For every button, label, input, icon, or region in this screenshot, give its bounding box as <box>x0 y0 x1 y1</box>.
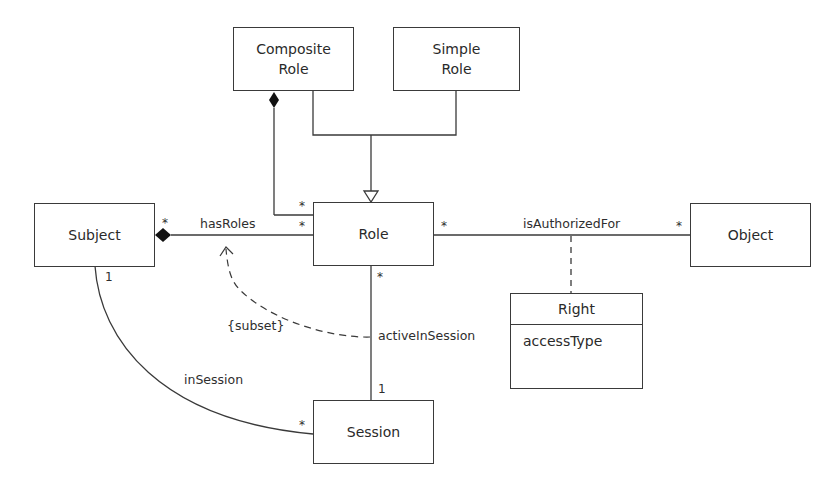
class-session[interactable]: Session <box>313 400 434 464</box>
class-role-label: Role <box>358 224 388 244</box>
class-subject-label: Subject <box>68 225 120 245</box>
multiplicity-role-composite: * <box>299 199 305 213</box>
composition-diamond-icon <box>155 228 171 242</box>
class-simple-role[interactable]: Simple Role <box>393 27 520 91</box>
constraint-label-subset: {subset} <box>227 318 284 333</box>
class-subject[interactable]: Subject <box>34 203 155 267</box>
composition-diamond-icon <box>269 92 279 108</box>
class-composite-role-label: Composite Role <box>256 39 331 79</box>
class-right-title: Right <box>511 294 642 325</box>
multiplicity-role-active-in-session: * <box>377 270 383 284</box>
class-right-attribute: accessType <box>511 325 642 351</box>
generalization-arrow-icon <box>364 191 378 202</box>
multiplicity-object-is-authorized-for: * <box>676 219 682 233</box>
multiplicity-role-is-authorized-for: * <box>441 219 447 233</box>
multiplicity-session-active-in-session: 1 <box>378 382 386 396</box>
class-session-label: Session <box>347 422 400 442</box>
association-label-is-authorized-for: isAuthorizedFor <box>523 216 620 231</box>
association-label-in-session: inSession <box>184 372 243 387</box>
class-object-label: Object <box>728 225 774 245</box>
class-object[interactable]: Object <box>690 203 811 267</box>
class-simple-role-label: Simple Role <box>433 39 481 79</box>
class-role[interactable]: Role <box>313 202 434 266</box>
multiplicity-subject-has-roles: * <box>162 216 168 230</box>
multiplicity-subject-in-session: 1 <box>105 270 113 284</box>
class-composite-role[interactable]: Composite Role <box>233 27 354 91</box>
multiplicity-session-in-session: * <box>299 418 305 432</box>
class-right[interactable]: Right accessType <box>510 293 643 389</box>
association-label-active-in-session: activeInSession <box>378 328 475 343</box>
association-label-has-roles: hasRoles <box>200 216 256 231</box>
multiplicity-role-has-roles: * <box>299 219 305 233</box>
